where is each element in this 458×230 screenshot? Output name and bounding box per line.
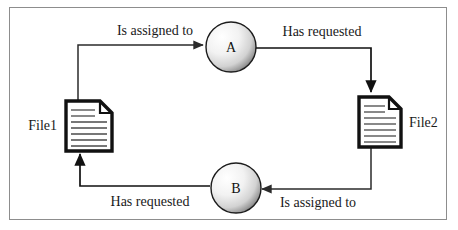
edge-file1-to-process-a: Is assigned to [78, 23, 203, 102]
edge-label-has-requested-top: Has requested [283, 24, 362, 39]
process-b-label: B [231, 181, 240, 196]
edge-process-b-to-file1: Has requested [80, 154, 210, 209]
edge-file2-to-process-b: Is assigned to [262, 147, 371, 210]
edge-label-is-assigned-to-bottom: Is assigned to [280, 195, 356, 210]
process-a-label: A [226, 40, 237, 55]
edge-label-is-assigned-to-top: Is assigned to [117, 23, 193, 38]
diagram-canvas: Is assigned to Has requested Is assigned… [0, 0, 458, 230]
resource-allocation-diagram: Is assigned to Has requested Is assigned… [0, 0, 458, 230]
file1-label: File1 [28, 118, 57, 133]
edge-b-to-file1-line [80, 154, 210, 186]
file2-label: File2 [409, 115, 438, 130]
edge-a-to-file2-line [255, 48, 371, 92]
edge-file2-to-b-line [262, 147, 371, 189]
edge-label-has-requested-bottom: Has requested [111, 194, 190, 209]
edge-process-a-to-file2: Has requested [255, 24, 371, 92]
file2-document-icon [359, 97, 401, 147]
node-process-b[interactable]: B [211, 163, 261, 213]
node-file2[interactable]: File2 [359, 97, 438, 147]
file1-document-icon [66, 101, 112, 151]
edge-file1-to-a-line [78, 45, 203, 102]
node-process-a[interactable]: A [206, 22, 256, 72]
node-file1[interactable]: File1 [28, 101, 112, 151]
